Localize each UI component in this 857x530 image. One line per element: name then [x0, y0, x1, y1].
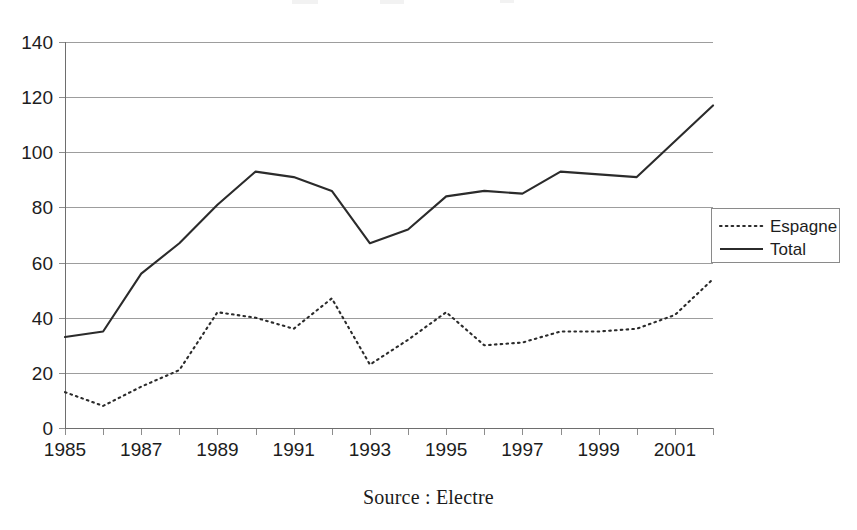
- x-tick-label: 1997: [501, 439, 543, 460]
- legend: Espagne Total: [712, 209, 840, 263]
- x-tick-label: 1989: [196, 439, 238, 460]
- legend-label-total: Total: [770, 240, 806, 259]
- y-tick-label: 20: [32, 363, 53, 384]
- x-tick-label: 1993: [349, 439, 391, 460]
- source-note: Source : Electre: [0, 486, 857, 509]
- x-tick-label: 2001: [654, 439, 696, 460]
- y-tick-label: 60: [32, 253, 53, 274]
- y-tick-label: 80: [32, 197, 53, 218]
- y-tick-label: 120: [21, 87, 53, 108]
- x-axis-labels: 198519871989199119931995199719992001: [44, 439, 696, 460]
- chart-canvas: 020406080100120140 198519871989199119931…: [0, 0, 857, 530]
- x-tick-label: 1999: [578, 439, 620, 460]
- legend-label-espagne: Espagne: [770, 217, 837, 236]
- chart-figure: 020406080100120140 198519871989199119931…: [0, 0, 857, 530]
- x-tick-label: 1985: [44, 439, 86, 460]
- y-tick-label: 140: [21, 32, 53, 53]
- y-tick-label: 40: [32, 308, 53, 329]
- y-tick-label: 100: [21, 142, 53, 163]
- x-tick-label: 1987: [120, 439, 162, 460]
- x-tick-label: 1995: [425, 439, 467, 460]
- y-tick-label: 0: [42, 418, 53, 439]
- x-tick-label: 1991: [273, 439, 315, 460]
